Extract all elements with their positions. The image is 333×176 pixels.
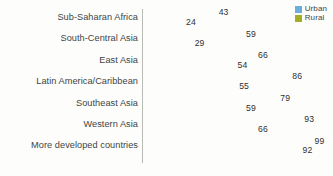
bar-value-label-rural: 24 xyxy=(186,17,196,27)
legend-swatch-urban xyxy=(295,6,302,13)
bar-value-label-rural: 59 xyxy=(246,103,256,113)
bar-urban[interactable]: 99 xyxy=(142,138,312,146)
legend-item-urban[interactable]: Urban xyxy=(295,5,327,13)
chart-legend: UrbanRural xyxy=(295,5,327,22)
legend-swatch-rural xyxy=(295,15,302,22)
bar-value-label-urban: 79 xyxy=(280,93,290,103)
bar-value-label-urban: 66 xyxy=(258,50,268,60)
bar-urban[interactable]: 43 xyxy=(142,10,216,18)
bar-value-label-urban: 43 xyxy=(219,7,229,17)
bar-group: South-Central Asia5929 xyxy=(0,29,333,50)
bar-group: Latin America/Caribbean8655 xyxy=(0,72,333,93)
bar-group: Western Asia9366 xyxy=(0,115,333,136)
bar-rural[interactable]: 55 xyxy=(142,83,236,91)
bar-rural[interactable]: 54 xyxy=(142,62,235,70)
bar-value-label-rural: 66 xyxy=(258,124,268,134)
bar-value-label-rural: 55 xyxy=(239,81,249,91)
bar-value-label-rural: 92 xyxy=(303,145,313,155)
bar-pair: 7959 xyxy=(142,94,333,115)
bar-urban[interactable]: 86 xyxy=(142,74,289,82)
bar-pair: 8655 xyxy=(142,72,333,93)
legend-label: Urban xyxy=(305,5,327,13)
bar-urban[interactable]: 79 xyxy=(142,95,277,103)
bar-rural[interactable]: 59 xyxy=(142,105,243,113)
bar-pair: 9366 xyxy=(142,115,333,136)
bar-chart: UrbanRural Sub-Saharan Africa4324South-C… xyxy=(0,0,333,176)
legend-item-rural[interactable]: Rural xyxy=(295,14,327,22)
bar-urban[interactable]: 59 xyxy=(142,31,243,39)
bar-pair: 6654 xyxy=(142,51,333,72)
category-label: Western Asia xyxy=(0,119,138,129)
category-label: Latin America/Caribbean xyxy=(0,76,138,86)
category-label: More developed countries xyxy=(0,140,138,150)
bar-rural[interactable]: 24 xyxy=(142,19,183,27)
bar-group: Southeast Asia7959 xyxy=(0,94,333,115)
category-label: Southeast Asia xyxy=(0,98,138,108)
bar-group-list: Sub-Saharan Africa4324South-Central Asia… xyxy=(0,8,333,158)
bar-pair: 5929 xyxy=(142,29,333,50)
category-label: Sub-Saharan Africa xyxy=(0,12,138,22)
bar-group: More developed countries9992 xyxy=(0,136,333,157)
bar-group: Sub-Saharan Africa4324 xyxy=(0,8,333,29)
category-label: East Asia xyxy=(0,55,138,65)
bar-group: East Asia6654 xyxy=(0,51,333,72)
bar-pair: 9992 xyxy=(142,136,333,157)
bar-rural[interactable]: 66 xyxy=(142,126,255,134)
bar-rural[interactable]: 92 xyxy=(142,148,300,156)
bar-urban[interactable]: 93 xyxy=(142,116,301,124)
bar-value-label-rural: 29 xyxy=(195,38,205,48)
bar-rural[interactable]: 29 xyxy=(142,41,192,49)
category-label: South-Central Asia xyxy=(0,33,138,43)
legend-label: Rural xyxy=(305,14,325,22)
bar-value-label-rural: 54 xyxy=(238,60,248,70)
plot-area: UrbanRural Sub-Saharan Africa4324South-C… xyxy=(0,0,333,176)
bar-value-label-urban: 93 xyxy=(304,114,314,124)
bar-value-label-urban: 59 xyxy=(246,29,256,39)
bar-value-label-urban: 86 xyxy=(292,71,302,81)
bar-value-label-urban: 99 xyxy=(315,136,325,146)
